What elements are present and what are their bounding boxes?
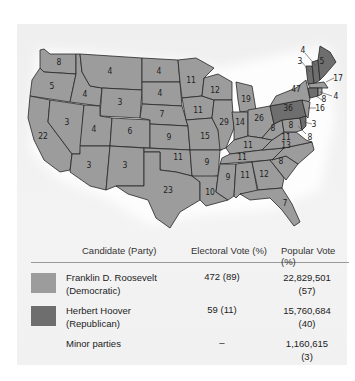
table-header: Candidate (Party) Electoral Vote (%) Pop… [31, 240, 349, 263]
label-il: 29 [219, 117, 229, 127]
table-row-roosevelt: Franklin D. Roosevelt (Democratic) 472 (… [17, 271, 347, 307]
label-me: 5 [320, 56, 325, 66]
label-mo: 15 [200, 131, 210, 141]
label-nj: 16 [315, 103, 325, 113]
democratic-swatch [31, 273, 56, 293]
label-tx: 23 [163, 185, 173, 195]
label-md-leader: 8 [308, 132, 313, 142]
label-wv: 8 [271, 123, 276, 133]
label-ri: 4 [334, 91, 339, 101]
popular-vote-pct: (57) [265, 284, 349, 297]
label-la: 10 [205, 187, 215, 197]
candidate-party: (Republican) [66, 317, 131, 330]
label-ut: 4 [92, 124, 97, 134]
label-nm: 3 [123, 160, 128, 170]
popular-vote-cell: 15,760,684 (40) [265, 304, 349, 330]
label-az: 3 [87, 160, 92, 170]
electoral-vote: 472 (89) [182, 271, 262, 282]
label-ca: 22 [38, 131, 48, 141]
label-sc: 8 [279, 156, 284, 166]
label-pa: 36 [283, 103, 293, 113]
label-ar: 9 [205, 157, 210, 167]
label-wy: 3 [118, 97, 123, 107]
label-ma: 17 [333, 73, 343, 83]
results-table: Candidate (Party) Electoral Vote (%) Pop… [17, 240, 347, 365]
label-sd: 4 [158, 88, 163, 98]
label-ia: 11 [193, 105, 203, 115]
header-candidate: Candidate (Party) [82, 245, 156, 256]
candidate-cell: Herbert Hoover (Republican) [66, 304, 131, 330]
candidate-name: Franklin D. Roosevelt [66, 271, 157, 284]
candidate-cell: Minor parties [66, 337, 121, 350]
label-va: 11 [281, 132, 291, 142]
label-nh: 4 [301, 45, 306, 55]
table-row-minor-parties: Minor parties – 1,160,615 (3) [17, 337, 347, 373]
electoral-vote: 59 (11) [182, 304, 262, 315]
label-de: 3 [312, 119, 317, 129]
label-tn: 11 [237, 152, 247, 162]
label-ky: 11 [243, 140, 253, 150]
label-nv: 3 [65, 117, 70, 127]
republican-swatch [31, 306, 56, 326]
label-wa: 8 [57, 57, 62, 67]
popular-vote-cell: 22,829,501 (57) [265, 271, 349, 297]
label-or: 5 [50, 81, 55, 91]
label-al: 11 [240, 170, 250, 180]
label-wi: 12 [210, 85, 220, 95]
popular-vote: 15,760,684 [265, 304, 349, 317]
candidate-party: (Democratic) [66, 284, 157, 297]
popular-vote-pct: (3) [265, 350, 349, 363]
us-map-svg: 8 5 22 4 3 4 3 4 3 6 3 4 4 7 9 11 23 11 … [0, 0, 355, 240]
label-ct: 8 [322, 94, 327, 104]
label-ok: 11 [173, 152, 183, 162]
label-id: 4 [83, 89, 88, 99]
label-fl: 7 [283, 198, 288, 208]
label-ny: 47 [291, 84, 301, 94]
candidate-name: Minor parties [66, 337, 121, 350]
candidate-name: Herbert Hoover [66, 304, 131, 317]
label-nd: 4 [157, 66, 162, 76]
label-ga: 12 [259, 169, 269, 179]
label-vt: 3 [298, 56, 303, 66]
label-ks: 9 [167, 132, 172, 142]
popular-vote-cell: 1,160,615 (3) [265, 337, 349, 363]
label-in: 14 [235, 117, 245, 127]
label-ms: 9 [226, 172, 231, 182]
label-ne: 7 [160, 109, 165, 119]
table-row-hoover: Herbert Hoover (Republican) 59 (11) 15,7… [17, 304, 347, 340]
label-mn: 11 [186, 75, 196, 85]
header-electoral: Electoral Vote (%) [191, 245, 267, 256]
popular-vote-pct: (40) [265, 317, 349, 330]
popular-vote: 22,829,501 [265, 271, 349, 284]
label-oh: 26 [254, 113, 264, 123]
electoral-map: 8 5 22 4 3 4 3 4 3 6 3 4 4 7 9 11 23 11 … [0, 0, 355, 240]
electoral-vote: – [182, 337, 262, 348]
label-md: 8 [289, 120, 294, 130]
header-popular: Popular Vote (%) [281, 245, 349, 267]
label-co: 6 [128, 126, 133, 136]
popular-vote: 1,160,615 [265, 337, 349, 350]
candidate-cell: Franklin D. Roosevelt (Democratic) [66, 271, 157, 297]
label-mt: 4 [108, 66, 113, 76]
label-mi: 19 [241, 94, 251, 104]
